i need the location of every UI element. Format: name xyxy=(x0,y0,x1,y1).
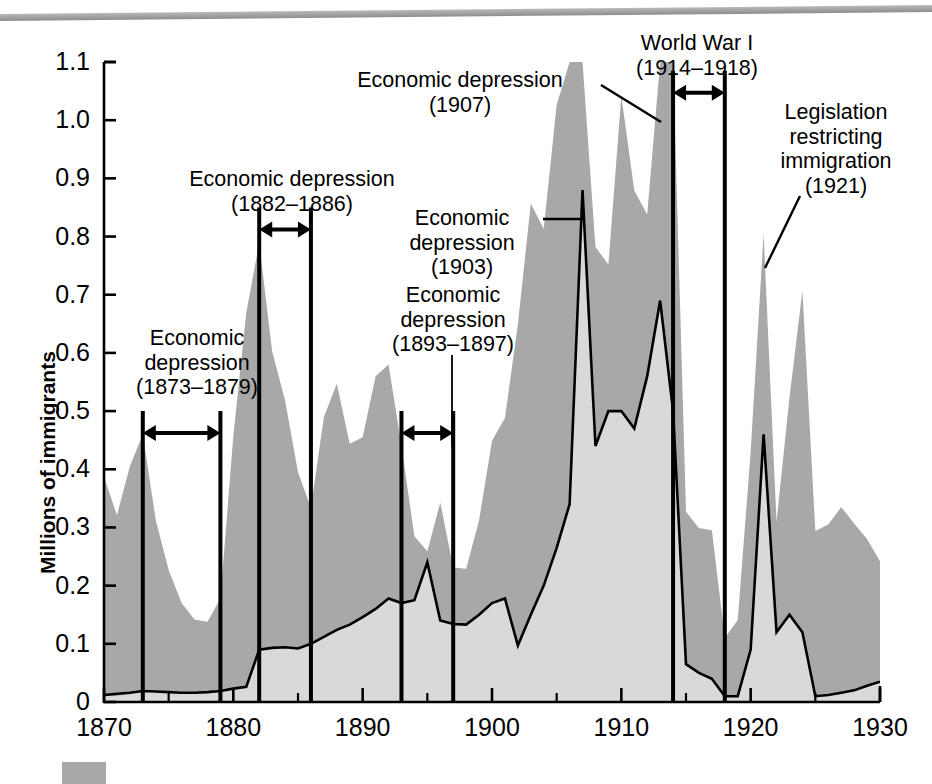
x-tick-label: 1870 xyxy=(76,713,132,741)
y-tick-label: 0.1 xyxy=(55,629,90,657)
legend-swatch xyxy=(62,762,106,784)
y-tick-label: 0.7 xyxy=(55,280,90,308)
annotation-world-war-i: World War I (1914–1918) xyxy=(617,31,777,80)
x-tick-label: 1890 xyxy=(335,713,391,741)
x-tick-label: 1900 xyxy=(464,713,520,741)
x-tick-label: 1880 xyxy=(206,713,262,741)
y-tick-label: 0.3 xyxy=(55,512,90,540)
x-tick-label: 1910 xyxy=(594,713,650,741)
y-tick-label: 0 xyxy=(76,687,90,715)
y-tick-label: 0.5 xyxy=(55,396,90,424)
y-tick-label: 0.4 xyxy=(55,454,90,482)
y-axis-label: Millions of immigrants xyxy=(36,351,60,574)
y-tick-label: 1.1 xyxy=(55,47,90,75)
y-tick-label: 0.8 xyxy=(55,222,90,250)
leader-line-depression-1907 xyxy=(601,85,661,122)
annotation-legislation-1921: Legislation restricting immigration (192… xyxy=(752,100,920,198)
annotation-depression-1907: Economic depression (1907) xyxy=(316,68,604,117)
y-tick-label: 0.9 xyxy=(55,163,90,191)
annotation-depression-1893: Economic depression (1893–1897) xyxy=(368,283,538,357)
y-tick-label: 0.6 xyxy=(55,338,90,366)
leader-line-legislation-1921 xyxy=(765,196,800,268)
y-tick-label: 1.0 xyxy=(55,105,90,133)
y-tick-label: 0.2 xyxy=(55,571,90,599)
x-tick-label: 1920 xyxy=(723,713,779,741)
annotation-depression-1903: Economic depression (1903) xyxy=(382,206,542,280)
x-tick-label: 1930 xyxy=(852,713,908,741)
annotation-depression-1873: Economic depression (1873–1879) xyxy=(104,326,290,400)
